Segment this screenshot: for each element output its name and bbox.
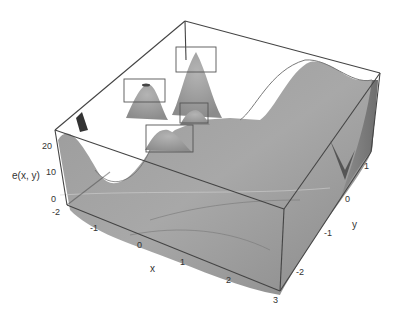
z-axis-label: e(x, y) (12, 170, 40, 181)
x-tick: 2 (226, 275, 231, 285)
y-axis-label: y (352, 219, 357, 230)
surface-plot: e(x, y) 20 10 0 -2 -1 0 1 2 3 x 1 0 -1 -… (0, 0, 395, 316)
z-tick: 10 (46, 167, 56, 177)
x-tick: 0 (137, 240, 142, 250)
y-tick: -1 (324, 228, 332, 238)
y-tick: 0 (345, 194, 350, 204)
surface (58, 52, 378, 295)
x-tick: -1 (90, 223, 98, 233)
x-axis-label: x (150, 263, 155, 274)
y-tick: -2 (296, 267, 304, 277)
z-tick: 20 (42, 141, 52, 151)
z-axis: e(x, y) 20 10 0 (12, 141, 56, 204)
x-tick: 1 (180, 257, 185, 267)
y-tick: 1 (364, 161, 369, 171)
x-tick: 3 (273, 295, 278, 305)
x-tick: -2 (52, 207, 60, 217)
z-tick: 0 (51, 194, 56, 204)
